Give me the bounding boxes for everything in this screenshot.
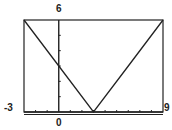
axis-ticks xyxy=(36,35,152,112)
graph-window xyxy=(0,0,172,130)
graph-frame xyxy=(24,20,163,115)
function-curve xyxy=(24,20,163,112)
axes xyxy=(24,20,163,112)
